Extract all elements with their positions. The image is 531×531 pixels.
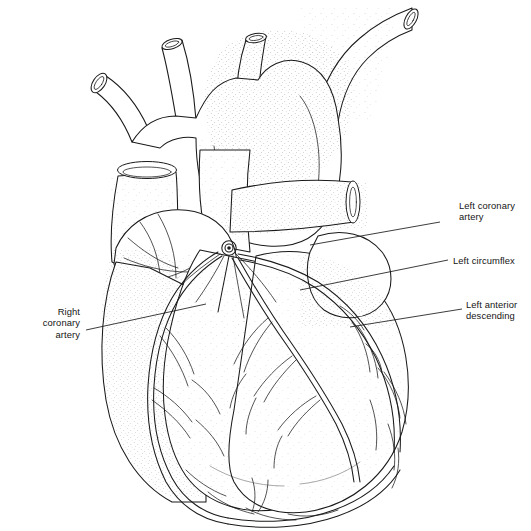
right-pulmonary-artery xyxy=(224,178,370,238)
brachiocephalic-trunk xyxy=(88,71,148,142)
label-right-coronary-artery: Right coronary artery xyxy=(10,306,80,340)
label-left-anterior-descending: Left anterior descending xyxy=(466,299,517,322)
label-left-coronary-artery: Left coronary artery xyxy=(459,200,515,223)
label-left-circumflex: Left circumflex xyxy=(453,255,515,266)
left-common-carotid-artery xyxy=(161,36,196,120)
coronary-artery-diagram: Left coronary artery Left circumflex Lef… xyxy=(0,0,531,531)
left-atrial-appendage xyxy=(300,228,400,326)
heart-illustration xyxy=(0,0,531,531)
